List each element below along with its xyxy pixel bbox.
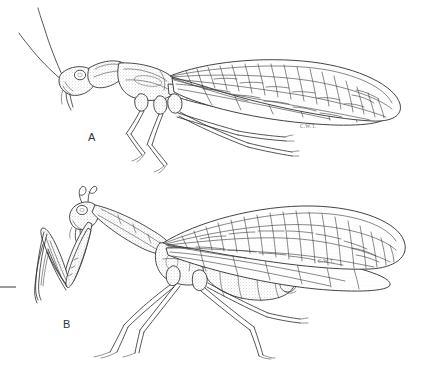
- figure-label-a: A: [88, 131, 96, 143]
- insect-plate-svg: C.W.T. A: [0, 0, 431, 369]
- plate-background: [0, 0, 431, 369]
- artist-signature-b: C.W.T.: [318, 258, 334, 264]
- illustration-plate: C.W.T. A: [0, 0, 431, 369]
- figure-label-b: B: [63, 318, 71, 330]
- artist-signature-a: C.W.T.: [300, 123, 316, 129]
